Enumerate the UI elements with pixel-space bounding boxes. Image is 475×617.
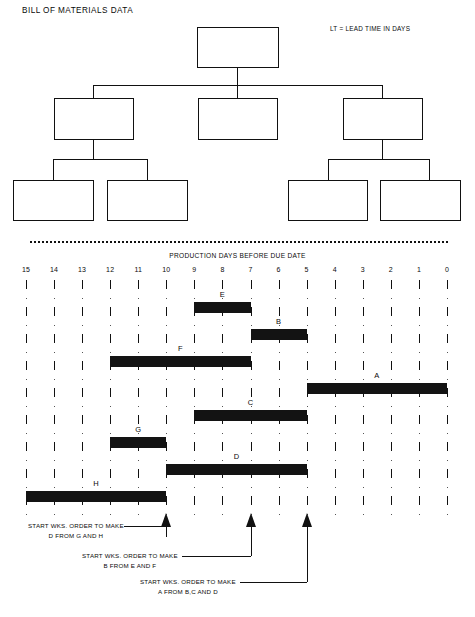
- axis-tick-3: 3: [353, 266, 373, 273]
- gantt-bar-h[interactable]: [26, 491, 166, 502]
- axis-tick-8: 8: [212, 266, 232, 273]
- gridline-dotted-13: [82, 298, 83, 516]
- page-title: BILL OF MATERIALS DATA: [22, 6, 133, 15]
- gantt-title: PRODUCTION DAYS BEFORE DUE DATE: [0, 252, 475, 259]
- axis-tick-5: 5: [297, 266, 317, 273]
- gantt-bar-label-e: E: [210, 290, 234, 299]
- marker-leader-v-1: [251, 525, 252, 556]
- axis-tick-9: 9: [184, 266, 204, 273]
- connector-b-down: [93, 140, 94, 159]
- connector-b-bus: [53, 159, 148, 160]
- gantt-bar-c[interactable]: [194, 410, 306, 421]
- marker-leader-h-2: [240, 582, 307, 583]
- marker-callout-line2: B FROM E AND F: [82, 561, 178, 571]
- connector-a-down: [237, 68, 238, 85]
- marker-callout-0: START WKS. ORDER TO MAKED FROM G AND H: [28, 521, 124, 541]
- connector-to-h: [429, 159, 430, 180]
- connector-to-e: [53, 159, 54, 180]
- gantt-bar-label-b: B: [267, 317, 291, 326]
- bom-node-c[interactable]: [198, 98, 278, 140]
- marker-leader-h-1: [182, 556, 251, 557]
- marker-leader-v-0: [166, 525, 167, 526]
- axis-tick-12: 12: [100, 266, 120, 273]
- gridline-dotted-11: [138, 298, 139, 516]
- gridline-dotted-12: [110, 298, 111, 516]
- gantt-bar-label-c: C: [239, 398, 263, 407]
- marker-callout-line1: START WKS. ORDER TO MAKE: [28, 521, 124, 531]
- gantt-bar-e[interactable]: [194, 302, 250, 313]
- bom-node-f[interactable]: [107, 180, 188, 221]
- section-divider: [30, 241, 450, 243]
- gantt-bar-label-a: A: [365, 371, 389, 380]
- bom-node-g[interactable]: [288, 180, 368, 221]
- gantt-chart: 1514131211109876543210 EBFACGDH: [0, 266, 475, 516]
- connector-to-d: [382, 85, 383, 98]
- bom-node-a[interactable]: [197, 27, 279, 68]
- bom-node-h[interactable]: [380, 180, 461, 221]
- axis-tick-10: 10: [156, 266, 176, 273]
- axis-tick-15: 15: [16, 266, 36, 273]
- legend-note: LT = LEAD TIME IN DAYS: [330, 25, 410, 32]
- axis-tick-7: 7: [241, 266, 261, 273]
- gridline-dotted-4: [335, 298, 336, 516]
- connector-d-down: [382, 140, 383, 159]
- gantt-bar-a[interactable]: [307, 383, 447, 394]
- gantt-bar-label-d: D: [225, 452, 249, 461]
- marker-callout-line2: D FROM G AND H: [28, 531, 124, 541]
- gridline-dotted-14: [54, 298, 55, 516]
- gridline-dotted-9: [194, 298, 195, 516]
- axis-tick-2: 2: [381, 266, 401, 273]
- axis-tick-4: 4: [325, 266, 345, 273]
- gantt-bar-g[interactable]: [110, 437, 166, 448]
- gridline-dotted-1: [419, 298, 420, 516]
- gridline-dotted-3: [363, 298, 364, 516]
- gantt-bar-d[interactable]: [166, 464, 306, 475]
- marker-callout-line1: START WKS. ORDER TO MAKE: [140, 577, 236, 587]
- gridline-dotted-8: [222, 298, 223, 516]
- axis-tick-14: 14: [44, 266, 64, 273]
- connector-to-g: [328, 159, 329, 180]
- connector-to-c: [237, 85, 238, 98]
- gridline-dotted-5: [307, 298, 308, 516]
- gridline-dotted-10: [166, 298, 167, 516]
- marker-callout-line2: A FROM B,C AND D: [140, 587, 236, 597]
- gantt-bar-label-f: F: [168, 344, 192, 353]
- marker-callout-1: START WKS. ORDER TO MAKEB FROM E AND F: [82, 551, 178, 571]
- connector-to-b: [93, 85, 94, 98]
- gantt-bar-b[interactable]: [251, 329, 307, 340]
- marker-leader-v-2: [307, 525, 308, 582]
- gridline-dotted-15: [26, 298, 27, 516]
- gantt-bar-f[interactable]: [110, 356, 250, 367]
- gantt-bar-label-h: H: [84, 479, 108, 488]
- gantt-bar-label-g: G: [126, 425, 150, 434]
- marker-leader-h-0: [124, 526, 166, 527]
- gridline-dotted-2: [391, 298, 392, 516]
- marker-callout-line1: START WKS. ORDER TO MAKE: [82, 551, 178, 561]
- gridline-dotted-0: [447, 298, 448, 516]
- marker-callout-2: START WKS. ORDER TO MAKEA FROM B,C AND D: [140, 577, 236, 597]
- bom-node-b[interactable]: [54, 98, 134, 140]
- axis-tick-11: 11: [128, 266, 148, 273]
- connector-to-f: [147, 159, 148, 180]
- bom-node-e[interactable]: [13, 180, 94, 221]
- axis-tick-1: 1: [409, 266, 429, 273]
- bom-node-d[interactable]: [343, 98, 423, 140]
- axis-tick-13: 13: [72, 266, 92, 273]
- axis-tick-0: 0: [437, 266, 457, 273]
- axis-tick-6: 6: [269, 266, 289, 273]
- connector-d-bus: [328, 159, 429, 160]
